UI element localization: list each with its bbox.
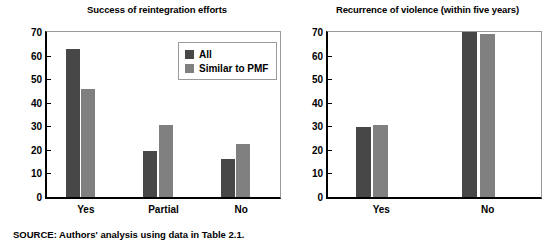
y-tick-label: 20 [312, 144, 323, 155]
bar [373, 125, 388, 197]
bar [462, 32, 477, 197]
y-tick-label: 50 [312, 74, 323, 85]
plot-area-left: 010203040506070 YesPartialNo All Similar… [45, 31, 281, 199]
chart-panel-success: Success of reintegration efforts Percent… [0, 0, 288, 222]
y-tick-label: 70 [312, 27, 323, 38]
bar [221, 159, 235, 197]
bars-right: YesNo [328, 32, 541, 197]
x-axis-label: Partial [148, 204, 179, 215]
legend-label-all: All [199, 49, 212, 60]
y-tick-label: 50 [31, 74, 42, 85]
bar [66, 49, 80, 198]
figure: Success of reintegration efforts Percent… [0, 0, 553, 250]
y-tick-label: 30 [312, 121, 323, 132]
x-axis-label: No [234, 204, 247, 215]
legend-item-similar-to-pmf: Similar to PMF [185, 61, 268, 75]
bar-group: No [435, 32, 542, 197]
y-tick-label: 0 [317, 192, 323, 203]
chart-panel-recurrence: Recurrence of violence (within five year… [288, 0, 553, 222]
legend-swatch-similar-to-pmf [185, 64, 194, 73]
plot-area-right: 010203040506070 YesNo [326, 31, 542, 199]
chart-title-right: Recurrence of violence (within five year… [288, 4, 553, 15]
bar [480, 34, 495, 197]
y-tick-label: 40 [312, 97, 323, 108]
bar [236, 144, 250, 197]
chart-title-left: Success of reintegration efforts [0, 4, 288, 15]
source-note: SOURCE: Authors' analysis using data in … [13, 229, 244, 240]
y-tick-label: 30 [31, 121, 42, 132]
chart-panels: Success of reintegration efforts Percent… [0, 0, 553, 222]
x-axis-label: Yes [373, 204, 390, 215]
bar [143, 151, 157, 197]
x-axis-label: Yes [77, 204, 94, 215]
y-tick-label: 40 [31, 97, 42, 108]
legend-swatch-all [185, 50, 194, 59]
y-tick-label: 0 [36, 192, 42, 203]
y-tick-label: 70 [31, 27, 42, 38]
y-tick-label: 10 [31, 168, 42, 179]
y-tick-label: 10 [312, 168, 323, 179]
bar-group: Yes [328, 32, 435, 197]
y-tick-label: 20 [31, 144, 42, 155]
x-axis-label: No [481, 204, 494, 215]
legend-label-similar-to-pmf: Similar to PMF [199, 63, 268, 74]
bar [159, 125, 173, 197]
y-tick-label: 60 [31, 50, 42, 61]
bar [81, 89, 95, 197]
chart-legend: All Similar to PMF [178, 42, 277, 80]
legend-item-all: All [185, 47, 268, 61]
bar [356, 127, 371, 197]
y-tick-label: 60 [312, 50, 323, 61]
bar-group: Yes [47, 32, 125, 197]
